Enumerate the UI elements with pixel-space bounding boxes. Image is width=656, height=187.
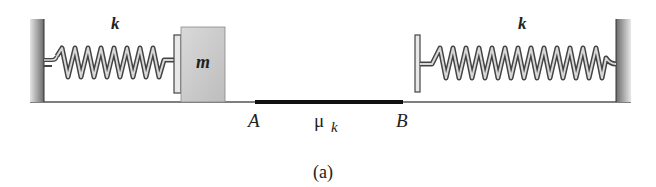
right-spring xyxy=(420,48,616,78)
point-a-label: A xyxy=(248,110,260,132)
left-spring-constant-label: k xyxy=(111,14,120,34)
left-spring-plate xyxy=(174,35,181,93)
right-spring-constant-label: k xyxy=(518,14,527,34)
diagram-graphics xyxy=(0,0,656,187)
spring-mass-diagram: k k m A μ k B (a) xyxy=(0,0,656,187)
left-wall xyxy=(30,19,44,102)
point-b-label: B xyxy=(396,110,408,132)
friction-coefficient-label: μ k xyxy=(314,110,336,132)
right-spring-plate xyxy=(415,35,420,92)
right-wall xyxy=(616,19,631,102)
mu-symbol: μ xyxy=(314,110,324,131)
mu-subscript: k xyxy=(331,119,338,135)
left-spring xyxy=(44,48,174,77)
figure-caption: (a) xyxy=(313,162,333,183)
block-mass-label: m xyxy=(196,52,210,73)
